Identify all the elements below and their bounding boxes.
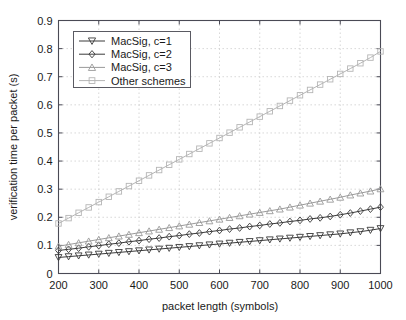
y-tick-label: 0.7	[37, 71, 52, 83]
x-tick-label: 400	[130, 279, 148, 291]
x-tick-labels: 2003004005006007008009001000	[49, 279, 392, 291]
legend-label: Other schemes	[111, 75, 186, 87]
y-tick-label: 0.6	[37, 99, 52, 111]
y-tick-label: 0.9	[37, 15, 52, 27]
x-tick-label: 700	[251, 279, 269, 291]
y-axis-title: verification time per packet (s)	[7, 74, 19, 221]
legend-label: MacSig, c=1	[111, 35, 172, 47]
y-tick-labels: 00.10.20.30.40.50.60.70.80.9	[37, 15, 52, 280]
y-tick-label: 0.2	[37, 211, 52, 223]
x-tick-label: 1000	[368, 279, 392, 291]
x-tick-label: 500	[170, 279, 188, 291]
legend-label: MacSig, c=3	[111, 61, 172, 73]
x-tick-label: 200	[49, 279, 67, 291]
y-tick-label: 0.1	[37, 239, 52, 251]
x-tick-label: 800	[291, 279, 309, 291]
legend-label: MacSig, c=2	[111, 48, 172, 60]
x-tick-label: 600	[210, 279, 228, 291]
x-tick-label: 900	[331, 279, 349, 291]
y-tick-label: 0.3	[37, 183, 52, 195]
chart-legend: MacSig, c=1MacSig, c=2MacSig, c=3Other s…	[74, 32, 191, 88]
y-tick-label: 0.4	[37, 155, 52, 167]
y-tick-label: 0.8	[37, 43, 52, 55]
y-tick-label: 0.5	[37, 127, 52, 139]
chart-figure: 00.10.20.30.40.50.60.70.80.9 20030040050…	[0, 0, 406, 320]
x-axis-title: packet length (symbols)	[162, 300, 278, 312]
x-tick-label: 300	[90, 279, 108, 291]
line-chart: 00.10.20.30.40.50.60.70.80.9 20030040050…	[0, 0, 406, 320]
